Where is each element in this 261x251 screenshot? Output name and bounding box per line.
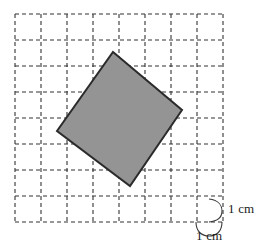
geometry-figure xyxy=(0,0,261,251)
figure-container: 1 cm 1 cm xyxy=(0,0,261,251)
vertical-unit-label: 1 cm xyxy=(228,201,254,217)
vertical-unit-brace xyxy=(209,199,222,222)
horizontal-unit-label: 1 cm xyxy=(196,228,222,244)
shaded-square xyxy=(57,52,182,186)
